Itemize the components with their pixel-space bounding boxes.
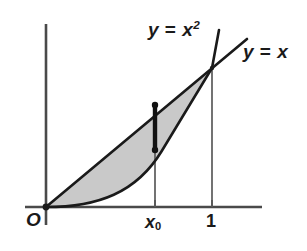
x0-label-subscript: 0: [155, 220, 161, 232]
segment-endpoint-bottom: [152, 147, 158, 153]
parabola-label-x: x: [182, 19, 193, 40]
line-y-equals-x: [46, 39, 247, 207]
line-label-x: x: [277, 41, 288, 62]
axis-label-x0: x0: [145, 212, 161, 233]
line-label-y: y: [243, 41, 254, 62]
line-label-equals: =: [260, 41, 272, 62]
parabola-label-equals: =: [165, 19, 177, 40]
parabola-label-y: y: [148, 19, 159, 40]
x0-label-x: x: [145, 212, 155, 232]
parabola-label-exponent: 2: [193, 18, 200, 31]
axis-label-origin: O: [26, 209, 41, 231]
axis-label-one: 1: [206, 211, 216, 232]
curve-label-parabola: y = x2: [148, 19, 200, 41]
segment-endpoint-top: [152, 102, 158, 108]
curve-label-line: y = x: [243, 41, 288, 63]
figure-canvas: y = x2 y = x O x0 1: [0, 0, 307, 251]
origin-point: [43, 204, 50, 211]
intersection-point: [210, 66, 214, 70]
